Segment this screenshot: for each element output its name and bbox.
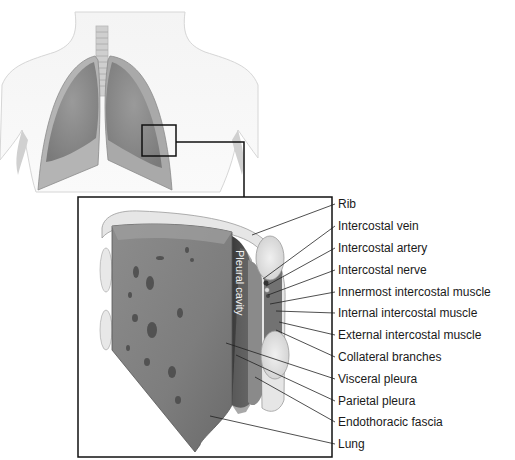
label-intercostal-vein: Intercostal vein xyxy=(338,219,419,233)
anatomy-diagram: Pleural cavity RibIntercostal veinInterc… xyxy=(0,0,515,460)
label-parietal-pleura: Parietal pleura xyxy=(338,394,415,408)
pleural-cavity-label: Pleural cavity xyxy=(234,250,246,315)
label-lung: Lung xyxy=(338,437,365,451)
label-intercostal-nerve: Intercostal nerve xyxy=(338,263,427,277)
label-rib: Rib xyxy=(338,197,356,211)
label-intercostal-artery: Intercostal artery xyxy=(338,241,427,255)
label-internal-intercostal-muscle: Internal intercostal muscle xyxy=(338,306,477,320)
illustration xyxy=(0,0,515,460)
torso-illustration xyxy=(0,12,258,192)
label-endothoracic-fascia: Endothoracic fascia xyxy=(338,415,443,429)
label-external-intercostal-muscle: External intercostal muscle xyxy=(338,328,481,342)
label-visceral-pleura: Visceral pleura xyxy=(338,372,417,386)
label-collateral-branches: Collateral branches xyxy=(338,350,441,364)
label-innermost-intercostal-muscle: Innermost intercostal muscle xyxy=(338,285,491,299)
